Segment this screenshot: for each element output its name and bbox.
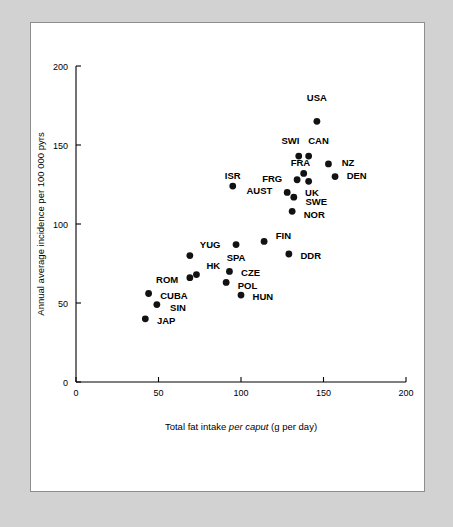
data-point-ddr[interactable] [285,251,292,258]
data-label-can: CAN [308,135,329,146]
data-point-den[interactable] [332,173,339,180]
data-point-nz[interactable] [325,161,332,168]
data-point-usa[interactable] [314,118,321,125]
data-point-fra[interactable] [300,170,307,177]
data-label-fin: FIN [276,230,291,241]
figure-page: 050100150200050100150200Total fat intake… [0,0,453,527]
data-label-isr: ISR [225,170,241,181]
data-label-fra: FRA [291,157,311,168]
data-point-isr[interactable] [229,183,236,190]
data-point-spa[interactable] [233,241,240,248]
data-point-uk[interactable] [305,178,312,185]
x-tick-label-50: 50 [153,388,163,398]
data-label-pol: POL [238,280,258,291]
y-tick-label-200: 200 [53,62,68,72]
data-label-cuba: CUBA [160,290,188,301]
data-point-swe[interactable] [290,194,297,201]
data-point-cuba[interactable] [145,290,152,297]
data-label-spa: SPA [227,252,246,263]
data-label-yug: YUG [200,239,221,250]
data-point-fin[interactable] [261,238,268,245]
data-label-swe: SWE [305,196,327,207]
data-label-frg: FRG [262,173,282,184]
x-axis-title: Total fat intake per caput (g per day) [165,421,317,432]
data-point-aust[interactable] [284,189,291,196]
data-label-rom: ROM [156,274,178,285]
y-tick-label-50: 50 [58,299,68,309]
data-point-yug[interactable] [186,252,193,259]
data-label-ddr: DDR [300,250,321,261]
x-tick-label-0: 0 [73,388,78,398]
y-tick-label-150: 150 [53,141,68,151]
data-point-nor[interactable] [289,208,296,215]
data-label-swi: SWI [282,135,300,146]
data-point-pol[interactable] [223,279,230,286]
x-tick-label-200: 200 [398,388,413,398]
data-label-aust: AUST [246,185,272,196]
data-label-nor: NOR [304,209,325,220]
scatter-plot: 050100150200050100150200Total fat intake… [0,0,453,527]
data-label-nz: NZ [342,157,355,168]
data-label-cze: CZE [241,267,260,278]
data-point-sin[interactable] [153,301,160,308]
data-label-usa: USA [307,92,327,103]
data-point-cze[interactable] [226,268,233,275]
data-label-jap: JAP [157,315,176,326]
data-point-hk[interactable] [193,271,200,278]
data-point-hun[interactable] [238,292,245,299]
x-tick-label-100: 100 [233,388,248,398]
data-point-jap[interactable] [142,315,149,322]
data-label-hun: HUN [253,291,274,302]
y-axis-title: Annual average incidence per 100 000 pyr… [35,132,46,316]
data-label-sin: SIN [170,302,186,313]
data-point-rom[interactable] [186,274,193,281]
data-point-frg[interactable] [294,176,301,183]
y-tick-label-100: 100 [53,220,68,230]
data-label-den: DEN [347,170,367,181]
data-label-hk: HK [206,260,220,271]
x-tick-label-150: 150 [316,388,331,398]
y-tick-label-0: 0 [63,378,68,388]
